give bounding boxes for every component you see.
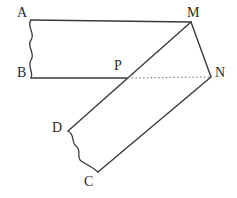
geometry-canvas	[0, 0, 237, 198]
edge-PN-dotted	[128, 77, 210, 78]
geometry-figure: A B C D M N P	[0, 0, 237, 198]
edge-DC-wavy	[68, 131, 98, 172]
edge-MD	[68, 22, 191, 131]
edge-AB-wavy	[30, 20, 33, 78]
vertex-label-M: M	[187, 6, 199, 20]
vertex-label-N: N	[215, 66, 225, 80]
vertex-label-A: A	[17, 6, 27, 20]
vertex-label-B: B	[17, 66, 26, 80]
edge-MN	[191, 22, 211, 77]
vertex-label-C: C	[84, 175, 93, 189]
vertex-label-D: D	[52, 121, 62, 135]
vertex-label-P: P	[114, 59, 122, 73]
edge-NC	[98, 77, 211, 172]
edge-AM	[31, 20, 191, 22]
